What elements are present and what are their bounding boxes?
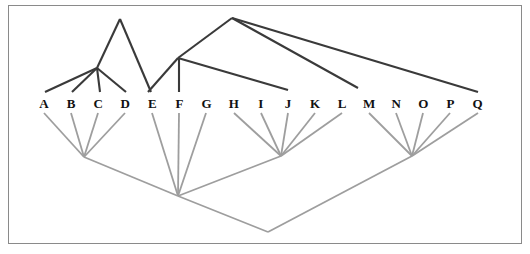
- taxon-label-k: K: [310, 97, 320, 110]
- taxon-label-q: Q: [473, 97, 483, 110]
- tree-branch-u-node-abcd-B: [72, 68, 97, 92]
- lower-tree-group: [44, 113, 478, 232]
- tree-branch-L-l-node-hijkl: [281, 113, 342, 156]
- taxon-label-a: A: [39, 97, 48, 110]
- tree-branch-N-l-node-mnopq: [396, 113, 412, 156]
- tree-branch-F-l-node-efg: [178, 113, 179, 196]
- tree-branch-u-apex-right-u-node-ef: [178, 18, 232, 58]
- taxon-label-m: M: [363, 97, 375, 110]
- taxon-label-d: D: [121, 97, 130, 110]
- tree-branch-u-node-abcd-C: [97, 68, 100, 92]
- tree-branch-l-node-mnopq-l-root: [268, 156, 412, 232]
- tree-branch-l-node-abcd-l-node-efg: [84, 157, 178, 196]
- tree-branch-u-apex-left-cross-right: [120, 19, 151, 92]
- taxon-label-o: O: [418, 97, 428, 110]
- taxon-label-h: H: [229, 97, 239, 110]
- taxon-label-n: N: [392, 97, 401, 110]
- tree-diagram-canvas: [0, 0, 530, 254]
- taxon-label-f: F: [176, 97, 184, 110]
- taxon-label-i: I: [258, 97, 263, 110]
- tree-branch-u-node-abcd-A: [45, 68, 97, 92]
- figure-root: ABCDEFGHIJKLMNOPQ: [0, 0, 530, 254]
- tree-branch-I-l-node-hijkl: [261, 113, 281, 156]
- tree-branch-l-node-hijkl-l-node-efg: [178, 156, 281, 196]
- tree-branch-E-l-node-efg: [152, 113, 178, 196]
- taxon-label-e: E: [148, 97, 157, 110]
- taxon-label-c: C: [93, 97, 102, 110]
- taxon-label-p: P: [447, 97, 455, 110]
- tree-branch-l-node-efg-l-root: [178, 196, 268, 232]
- tree-branch-H-l-node-hijkl: [234, 113, 281, 156]
- tree-branch-u-node-ef-E: [148, 58, 178, 92]
- tree-branch-M-l-node-mnopq: [369, 113, 412, 156]
- taxon-label-b: B: [67, 97, 76, 110]
- taxon-label-l: L: [338, 97, 347, 110]
- tree-branch-u-apex-left-u-node-abcd: [97, 19, 120, 68]
- taxon-label-j: J: [285, 97, 292, 110]
- tree-branch-G-l-node-efg: [178, 113, 206, 196]
- upper-tree-group: [45, 18, 478, 92]
- taxon-label-g: G: [202, 97, 212, 110]
- tree-branch-u-apex-right-Q: [232, 18, 478, 92]
- tree-branch-u-node-abcd-D: [97, 68, 126, 92]
- tree-branch-u-apex-right-M: [232, 18, 358, 88]
- tree-branch-u-node-ef-J: [178, 58, 288, 90]
